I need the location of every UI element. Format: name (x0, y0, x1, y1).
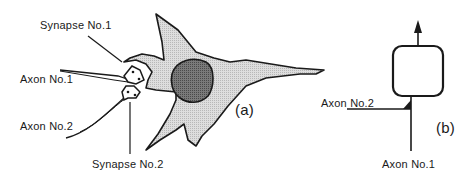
axon-2 (66, 98, 124, 138)
synapse-1-leader (88, 36, 122, 62)
label-b-axon-2: Axon No.2 (321, 97, 374, 109)
synapse-1 (124, 66, 144, 84)
output-arrow-icon (414, 20, 422, 33)
label-synapse-1: Synapse No.1 (40, 19, 112, 31)
synapse-2 (122, 86, 140, 100)
nucleus (171, 59, 213, 102)
label-axon-2: Axon No.2 (20, 120, 73, 132)
panel-b-label: (b) (436, 120, 455, 136)
neuron-box (393, 46, 443, 96)
neuron-diagram: Synapse No.1 Axon No.1 Axon No.2 Synapse… (0, 0, 474, 178)
label-synapse-2: Synapse No.2 (92, 158, 164, 170)
cell-body (124, 14, 324, 150)
label-axon-1: Axon No.1 (20, 73, 73, 85)
synapse-junction-icon (403, 100, 411, 109)
panel-a-label: (a) (235, 102, 254, 118)
label-b-axon-1: Axon No.1 (382, 158, 435, 170)
